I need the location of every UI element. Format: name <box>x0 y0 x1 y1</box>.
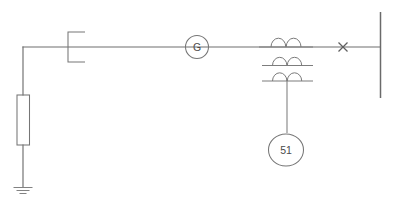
generator-label: G <box>193 41 201 53</box>
overcurrent-relay-51-symbol[interactable]: 51 <box>269 134 304 166</box>
overcurrent-relay-label: 51 <box>280 144 292 156</box>
single-line-diagram-canvas: G 51 <box>0 0 394 204</box>
current-transformer-winding-2[interactable] <box>262 57 313 65</box>
earth-ground-icon <box>14 188 33 194</box>
single-line-diagram-svg: G 51 <box>0 0 394 204</box>
current-transformer-winding-1[interactable] <box>259 38 313 47</box>
neutral-grounding-resistor[interactable] <box>17 95 30 145</box>
current-transformer-winding-3[interactable] <box>262 73 313 81</box>
